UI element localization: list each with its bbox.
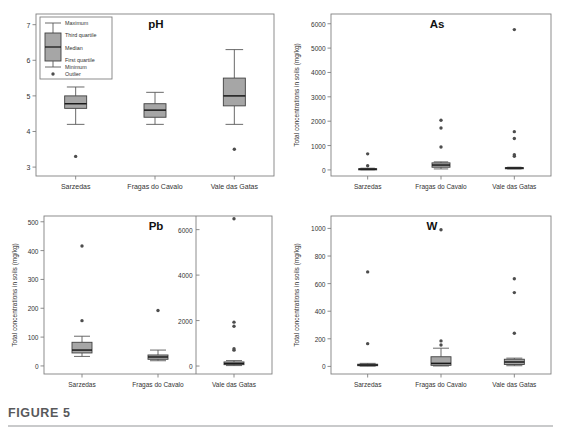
outlier-point [156,309,159,312]
y-axis-tick-label: 1000 [311,225,326,232]
y-axis-tick-label: 200 [28,305,39,312]
outlier-point [74,155,77,158]
x-axis-category-label: Vale das Gatas [211,183,259,190]
secondary-axis-tick-label: 2000 [178,318,193,325]
caption-divider [8,425,553,427]
outlier-point [232,325,235,328]
y-axis-tick-label: 0 [322,363,326,370]
outlier-point [513,277,516,280]
legend-outlier-marker [51,72,54,75]
y-axis-title: Total concentrations in soils (mg/kg) [11,243,19,346]
figure-panel-grid: 34567pHSarzedasFragas do CavaloVale das … [0,0,561,400]
x-axis-category-label: Fragas do Cavalo [127,183,182,191]
outlier-point [439,228,442,231]
outlier-point [232,217,235,220]
panel-title: As [430,18,445,30]
legend-label-minimum: Minimum [65,64,87,70]
outlier-point [366,342,369,345]
panel-title: W [427,220,438,232]
outlier-point [513,291,516,294]
outlier-point [366,152,369,155]
boxplot-group [504,277,524,366]
outlier-point [439,119,442,122]
boxplot-group [431,228,451,366]
outlier-point [513,28,516,31]
y-axis-tick-label: 400 [28,248,39,255]
boxplot-group [65,87,87,158]
boxplot-group [224,217,244,366]
figure-caption-label: FIGURE 5 [8,406,70,420]
boxplot-as: 0100020003000400050006000Total concentra… [287,6,559,206]
box-iqr [72,342,92,353]
legend-label-first-quartile: First quartile [65,57,95,63]
outlier-point [439,339,442,342]
outlier-point [513,137,516,140]
boxplot-group [359,152,377,170]
x-axis-category-label: Vale das Gatas [212,381,257,388]
panel-title: Pb [149,220,164,232]
x-axis-category-label: Sarzedas [68,381,96,388]
chart-panel-w: 02004006008001000Total concentrations in… [287,208,559,404]
boxplot-ph: 34567pHSarzedasFragas do CavaloVale das … [6,6,280,206]
boxplot-group [72,244,92,356]
outlier-point [439,145,442,148]
y-axis-tick-label: 600 [315,281,326,288]
plot-frame [331,14,551,176]
y-axis-tick-label: 0 [322,167,326,174]
y-axis-tick-label: 6000 [311,21,326,28]
y-axis-tick-label: 5 [27,93,31,100]
panel-title: pH [148,18,163,30]
boxplot-group [505,28,523,169]
secondary-axis-tick-label: 0 [189,363,193,370]
legend-label-outlier: Outlier [65,71,81,77]
y-axis-tick-label: 7 [27,22,31,29]
box-iqr [65,96,87,108]
boxplot-legend: MaximumThird quartileMedianFirst quartil… [40,17,112,79]
boxplot-pb: 0100200300400500Total concentrations in … [6,208,280,404]
figure-caption: FIGURE 5 [0,404,561,435]
legend-label-maximum: Maximum [65,20,89,26]
outlier-point [439,343,442,346]
y-axis-tick-label: 1000 [311,143,326,150]
boxplot-group [432,119,450,169]
outlier-point [233,148,236,151]
boxplot-group [358,270,378,366]
legend-label-third-quartile: Third quartile [65,32,96,38]
secondary-axis-tick-label: 4000 [178,272,193,279]
outlier-point [80,319,83,322]
chart-panel-ph: 34567pHSarzedasFragas do CavaloVale das … [6,6,280,206]
y-axis-tick-label: 5000 [311,45,326,52]
y-axis-tick-label: 2000 [311,118,326,125]
y-axis-tick-label: 4000 [311,69,326,76]
outlier-point [513,153,516,156]
boxplot-group [144,92,166,124]
outlier-point [439,126,442,129]
chart-panel-as: 0100020003000400050006000Total concentra… [287,6,559,206]
y-axis-tick-label: 4 [27,128,31,135]
box-iqr [223,78,245,106]
y-axis-tick-label: 3 [27,164,31,171]
x-axis-category-label: Fragas do Cavalo [415,183,467,191]
y-axis-tick-label: 500 [28,219,39,226]
boxplot-group [148,309,168,361]
outlier-point [232,320,235,323]
x-axis-category-label: Fragas do Cavalo [415,381,467,389]
legend-label-median: Median [65,45,83,51]
x-axis-category-label: Vale das Gatas [492,381,537,388]
boxplot-w: 02004006008001000Total concentrations in… [287,208,559,404]
outlier-point [513,130,516,133]
y-axis-tick-label: 300 [28,276,39,283]
y-axis-tick-label: 0 [35,363,39,370]
y-axis-tick-label: 200 [315,336,326,343]
y-axis-tick-label: 6 [27,57,31,64]
secondary-axis-tick-label: 6000 [178,227,193,234]
outlier-point [80,244,83,247]
boxplot-group [223,50,245,151]
y-axis-title: Total concentrations in soils (mg/kg) [293,243,301,346]
outlier-point [513,332,516,335]
outlier-point [232,347,235,350]
y-axis-title: Total concentrations in soils (mg/kg) [293,43,301,146]
y-axis-tick-label: 3000 [311,94,326,101]
x-axis-category-label: Fragas do Cavalo [132,381,184,389]
y-axis-tick-label: 800 [315,253,326,260]
